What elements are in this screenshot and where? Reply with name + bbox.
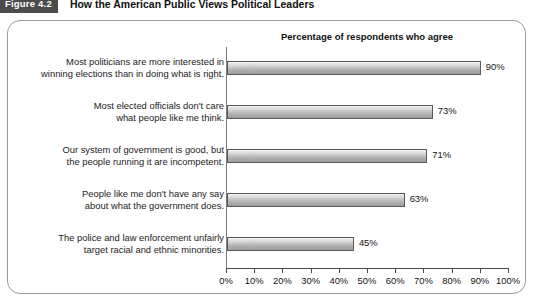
bar-category-label-line1: Most politicians are more interested in [9,56,224,68]
x-axis-tick-label: 40% [329,275,348,286]
figure-title: How the American Public Views Political … [70,0,315,10]
x-axis-tick-label: 90% [470,275,489,286]
x-axis-tick-mark [508,269,509,273]
figure-number-badge: Figure 4.2 [0,0,58,13]
chart-row: Most politicians are more interested in … [226,47,508,91]
x-axis-tick-mark [339,269,340,273]
x-axis-tick-label: 50% [358,275,377,286]
bar [227,237,354,251]
x-axis-tick-label: 0% [219,275,233,286]
bar-category-label-line1: The police and law enforcement unfairly [9,232,224,244]
bar-category-label-line2: about what the government does. [9,200,224,212]
x-axis-tick-mark [254,269,255,273]
bar-category-label-line2: winning elections than in doing what is … [9,68,224,80]
bar-value-label: 45% [359,236,378,250]
x-axis-tick-mark [226,269,227,273]
x-axis-tick-label: 30% [301,275,320,286]
bar-value-label: 73% [438,104,457,118]
bar-category-label-line2: the people running it are incompetent. [9,156,224,168]
x-axis-tick-label: 100% [496,275,520,286]
x-axis-tick-label: 20% [273,275,292,286]
bar-category-label: People like me don't have any say about … [9,188,224,211]
bar-category-label: Most elected officials don't care what p… [9,100,224,123]
chart-row: Our system of government is good, but th… [226,135,508,179]
x-axis-tick-label: 60% [386,275,405,286]
chart-row: The police and law enforcement unfairly … [226,223,508,267]
x-axis-tick-mark [367,269,368,273]
x-axis-tick-mark [282,269,283,273]
x-axis-tick-mark [311,269,312,273]
bar-category-label: The police and law enforcement unfairly … [9,232,224,255]
plot-area: Most politicians are more interested in … [226,47,508,268]
bar [227,61,481,75]
bar-category-label: Our system of government is good, but th… [9,144,224,167]
bar-category-label-line1: Most elected officials don't care [9,100,224,112]
chart-row: Most elected officials don't care what p… [226,91,508,135]
bar [227,193,405,207]
x-axis-tick-label: 70% [414,275,433,286]
x-axis-tick-mark [452,269,453,273]
x-axis-tick-label: 80% [442,275,461,286]
bar-value-label: 63% [410,192,429,206]
chart-row: People like me don't have any say about … [226,179,508,223]
bar-category-label-line1: People like me don't have any say [9,188,224,200]
x-axis-tick-label: 10% [245,275,264,286]
bar-value-label: 90% [486,60,505,74]
bar [227,105,433,119]
bar-category-label-line1: Our system of government is good, but [9,144,224,156]
x-axis-tick-mark [395,269,396,273]
x-axis-tick-mark [480,269,481,273]
bar-category-label: Most politicians are more interested in … [9,56,224,79]
x-axis-tick-mark [423,269,424,273]
bar-value-label: 71% [432,148,451,162]
bar [227,149,427,163]
figure-header: Figure 4.2 How the American Public Views… [0,0,536,16]
bar-category-label-line2: what people like me think. [9,112,224,124]
chart-caption: Percentage of respondents who agree [226,31,508,42]
bar-category-label-line2: target racial and ethnic minorities. [9,244,224,256]
